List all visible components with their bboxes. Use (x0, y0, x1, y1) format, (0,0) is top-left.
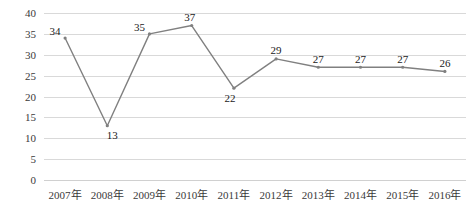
line-chart: 0510152025303540 34133537222927272726 20… (0, 0, 473, 214)
data-point-label: 27 (397, 54, 408, 65)
x-axis: 2007年2008年2009年2010年2011年2012年2013年2014年… (44, 186, 466, 206)
data-point-marker (443, 70, 446, 73)
x-axis-tick-label: 2010年 (171, 186, 213, 206)
x-axis-tick-label: 2008年 (86, 186, 128, 206)
x-axis-tick-label: 2012年 (255, 186, 297, 206)
x-axis-tick-label: 2013年 (297, 186, 339, 206)
data-point-marker (359, 66, 362, 69)
x-axis-tick-label: 2015年 (382, 186, 424, 206)
data-point-label: 22 (224, 93, 235, 104)
data-point-marker (148, 32, 151, 35)
series-markers (64, 24, 447, 127)
data-point-label: 13 (107, 129, 118, 140)
data-point-marker (401, 66, 404, 69)
data-point-label: 27 (355, 54, 366, 65)
data-point-label: 26 (439, 58, 450, 69)
data-point-marker (232, 87, 235, 90)
data-point-label: 29 (271, 44, 282, 55)
x-axis-tick-label: 2009年 (128, 186, 170, 206)
series-line-layer (0, 0, 473, 214)
x-axis-tick-label: 2016年 (424, 186, 466, 206)
data-point-marker (317, 66, 320, 69)
data-point-marker (106, 124, 109, 127)
x-axis-tick-label: 2007年 (44, 186, 86, 206)
data-point-marker (275, 57, 278, 60)
data-point-label: 35 (134, 21, 145, 32)
data-point-label: 34 (50, 26, 61, 37)
x-axis-tick-label: 2014年 (339, 186, 381, 206)
data-point-marker (64, 36, 67, 39)
data-point-marker (190, 24, 193, 27)
data-point-label: 27 (313, 54, 324, 65)
x-axis-tick-label: 2011年 (213, 186, 255, 206)
series-polyline (65, 26, 445, 126)
data-point-label: 37 (184, 11, 195, 22)
